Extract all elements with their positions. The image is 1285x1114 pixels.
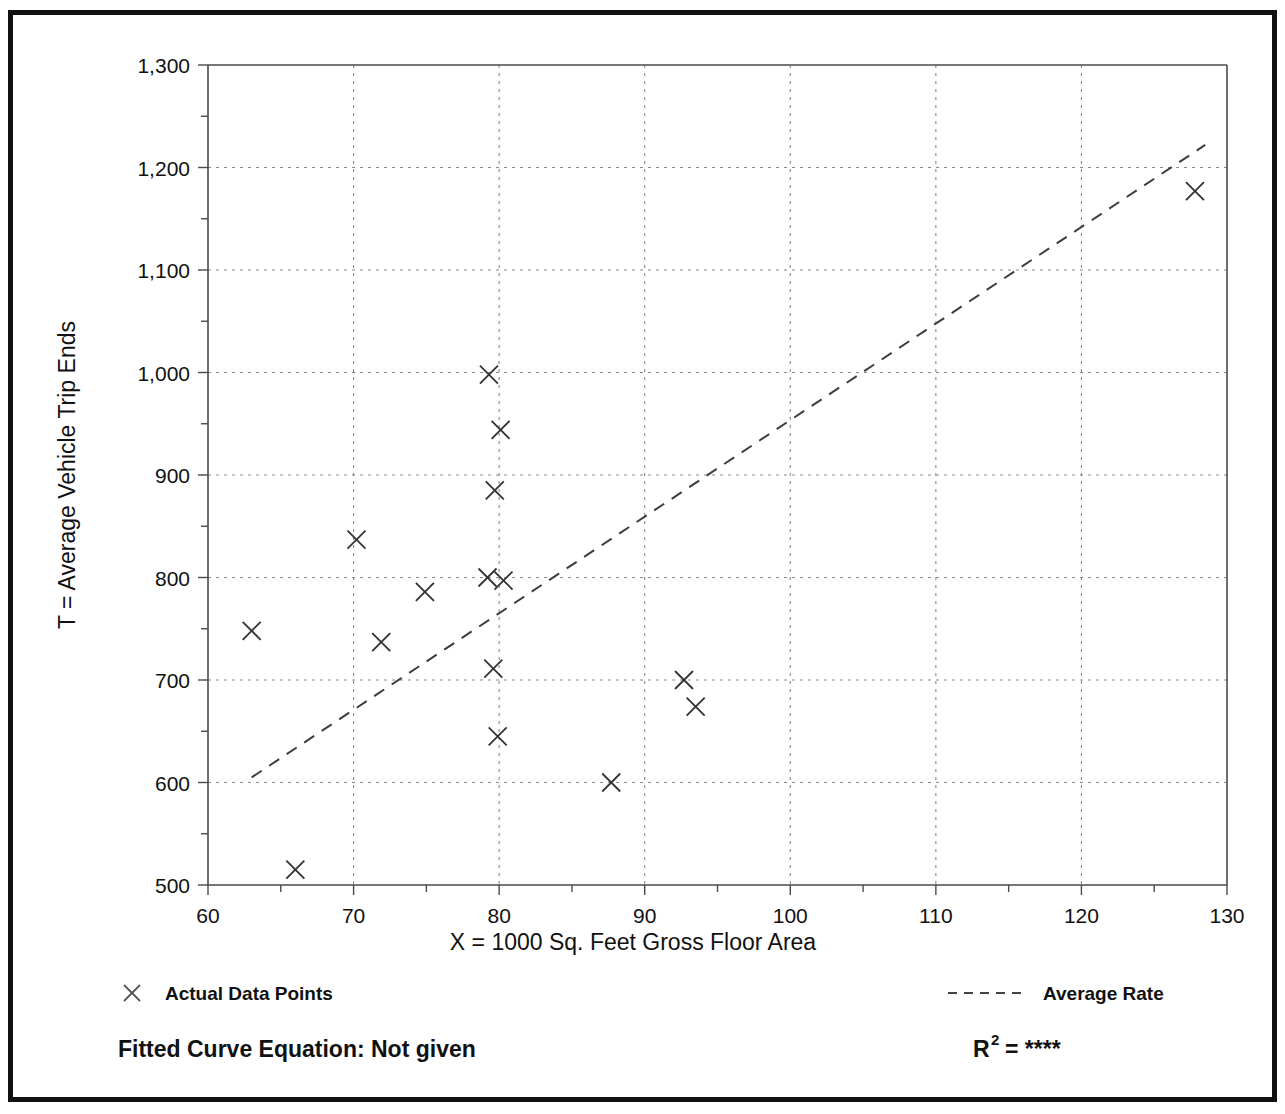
data-point-marker [495,572,513,590]
x-axis-title: X = 1000 Sq. Feet Gross Floor Area [450,929,816,955]
y-axis-ticks [198,65,208,885]
x-tick-label: 100 [773,904,808,927]
data-point-marker [347,531,365,549]
y-axis-tick-labels: 5006007008009001,0001,1001,2001,300 [137,54,190,897]
y-tick-label: 700 [155,669,190,692]
legend-actual-data-points: Actual Data Points [124,983,333,1004]
x-tick-label: 120 [1064,904,1099,927]
data-point-marker [484,660,502,678]
x-marker-icon [124,985,140,1001]
gridlines [208,65,1227,885]
fitted-curve-equation: Fitted Curve Equation: Not given [118,1036,476,1062]
data-point-marker [286,861,304,879]
x-tick-label: 90 [633,904,656,927]
x-tick-label: 110 [919,904,952,927]
data-point-marker [243,622,261,640]
y-axis-title: T = Average Vehicle Trip Ends [54,321,80,629]
r-squared-base: R [973,1036,990,1062]
data-point-marker [489,727,507,745]
x-tick-label: 80 [487,904,510,927]
scatter-chart: 5006007008009001,0001,1001,2001,300 6070… [13,15,1272,1097]
y-tick-label: 600 [155,772,190,795]
average-rate-trend-line [252,145,1205,777]
legend-label-average-rate: Average Rate [1043,983,1164,1004]
x-tick-label: 70 [342,904,365,927]
y-tick-label: 800 [155,567,190,590]
x-tick-label: 130 [1209,904,1244,927]
x-axis-tick-labels: 60708090100110120130 [196,904,1244,927]
trend-line-segment [252,145,1205,777]
y-tick-label: 1,300 [137,54,190,77]
legend-average-rate: Average Rate [948,983,1164,1004]
data-point-marker [480,366,498,384]
legend-label-actual-data-points: Actual Data Points [165,983,333,1004]
r-squared-value: = **** [1005,1036,1061,1062]
x-tick-label: 60 [196,904,219,927]
figure-frame: 5006007008009001,0001,1001,2001,300 6070… [8,10,1277,1102]
x-axis-ticks [208,885,1227,895]
r-squared-annotation: R 2 = **** [973,1031,1061,1062]
y-tick-label: 1,100 [137,259,190,282]
data-point-marker [492,421,510,439]
r-squared-exponent: 2 [991,1031,999,1048]
plot-area [198,65,1227,895]
y-tick-label: 500 [155,874,190,897]
data-point-marker [372,633,390,651]
y-tick-label: 1,200 [137,157,190,180]
y-tick-label: 900 [155,464,190,487]
data-point-marker [687,698,705,716]
data-point-marker [1186,182,1204,200]
y-tick-label: 1,000 [137,362,190,385]
data-point-markers [243,182,1204,879]
data-point-marker [486,481,504,499]
data-point-marker [416,583,434,601]
